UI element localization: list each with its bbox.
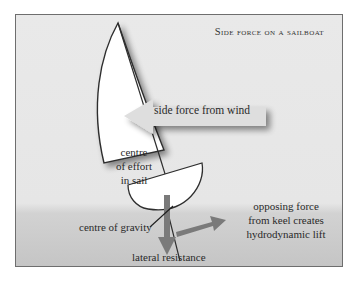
centre-effort-line-1: centre xyxy=(108,145,160,159)
side-force-label: side force from wind xyxy=(154,103,250,117)
opposing-line-2: from keel creates xyxy=(231,213,341,227)
diagram-frame: Side force on a sailboat side force from… xyxy=(15,14,343,267)
lift-arrow xyxy=(176,216,226,237)
centre-effort-label: centre of effort in sail xyxy=(108,145,160,187)
centre-effort-line-2: of effort xyxy=(108,159,160,173)
lateral-resistance-label: lateral resistance xyxy=(132,250,206,264)
centre-effort-line-3: in sail xyxy=(108,173,160,187)
opposing-force-label: opposing force from keel creates hydrody… xyxy=(231,199,341,241)
opposing-line-3: hydrodynamic lift xyxy=(231,227,341,241)
centre-gravity-label: centre of gravity xyxy=(79,220,152,234)
opposing-line-1: opposing force xyxy=(231,199,341,213)
diagram-title: Side force on a sailboat xyxy=(215,26,324,37)
